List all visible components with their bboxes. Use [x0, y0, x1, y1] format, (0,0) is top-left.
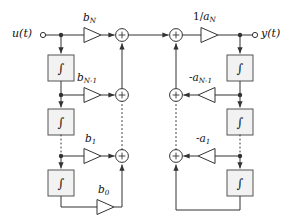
output-terminal-node [252, 32, 257, 37]
gain-triangle-a1 [198, 149, 215, 164]
gain-label-b0: b0 [98, 184, 109, 195]
gain-label-a1: -a1 [196, 133, 210, 144]
gain-triangle-aNm1 [198, 88, 215, 103]
gain-triangle-b0 [97, 200, 114, 215]
gain-label-aNm1: -aN-1 [189, 72, 212, 83]
integrator-symbol-left-3: ∫ [58, 176, 65, 191]
gain-triangle-bN [84, 28, 101, 43]
integrator-symbol-left-2: ∫ [58, 115, 65, 130]
gain-triangle-b1 [84, 149, 101, 164]
gain-label-bN: bN [83, 12, 96, 23]
gain-label-bNm1: bN-1 [77, 72, 97, 83]
block-diagram-canvas: ∫ ∫ ∫ ∫ ∫ ∫ u(t) y(t) bN bN-1 b1 b0 1/aN… [0, 0, 295, 224]
input-signal-label: u(t) [12, 28, 32, 39]
block-diagram-svg: ∫ ∫ ∫ ∫ ∫ ∫ [0, 0, 295, 224]
input-terminal-node [40, 32, 45, 37]
gain-label-b1: b1 [85, 133, 96, 144]
gain-triangle-bNm1 [84, 88, 101, 103]
integrator-symbol-right-1: ∫ [237, 61, 244, 76]
output-signal-label: y(t) [261, 28, 280, 39]
integrator-symbol-right-3: ∫ [237, 176, 244, 191]
integrator-symbol-right-2: ∫ [237, 115, 244, 130]
gain-label-inv-aN: 1/aN [193, 11, 216, 22]
integrator-symbol-left-1: ∫ [58, 61, 65, 76]
gain-triangle-inv-aN [201, 28, 218, 43]
